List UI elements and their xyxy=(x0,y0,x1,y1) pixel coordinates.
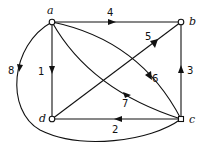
edge-label-5: 5 xyxy=(145,31,151,42)
node-label-d: d xyxy=(39,112,46,125)
directed-graph-diagram: 1 4 3 2 5 6 xyxy=(0,0,206,151)
arrow-head-icon xyxy=(114,116,122,122)
node-label-a: a xyxy=(47,4,54,17)
edge-a-d: 1 xyxy=(38,22,55,119)
edge-d-b: 5 xyxy=(52,22,181,119)
node-a: a xyxy=(47,4,55,25)
arrow-head-icon xyxy=(145,71,152,80)
edge-label-2: 2 xyxy=(112,124,118,135)
edge-label-6: 6 xyxy=(152,73,158,84)
arrow-head-icon xyxy=(108,19,116,25)
edge-label-3: 3 xyxy=(187,65,193,76)
edge-label-7: 7 xyxy=(122,98,128,109)
node-label-c: c xyxy=(189,113,195,126)
edge-label-4: 4 xyxy=(107,7,113,18)
graph-canvas: 1 4 3 2 5 6 xyxy=(0,0,206,151)
edge-a-b: 4 xyxy=(52,7,181,25)
edge-label-1: 1 xyxy=(38,66,44,77)
edge-c-b: 3 xyxy=(178,22,193,119)
node-label-b: b xyxy=(189,15,196,28)
edge-label-8: 8 xyxy=(8,65,14,76)
edge-c-d: 2 xyxy=(52,116,181,135)
arrow-head-icon xyxy=(49,66,55,74)
arrow-head-icon xyxy=(178,65,184,73)
